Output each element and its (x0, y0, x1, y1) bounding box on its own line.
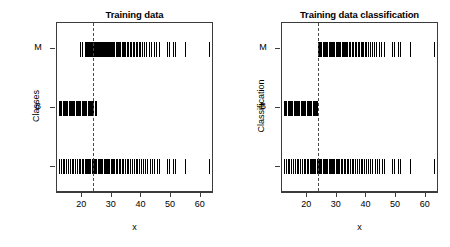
rug-tick (185, 159, 186, 174)
panel-training-data: Training data x Classes 2030405060 MB (0, 0, 225, 247)
rug-row (57, 159, 212, 174)
rug-row (57, 101, 212, 116)
rug-tick (372, 159, 373, 174)
rug-tick (185, 42, 186, 57)
y-tick-label: M (30, 42, 46, 52)
y-tick (275, 107, 280, 108)
rug-tick (156, 42, 157, 57)
rug-tick (149, 42, 150, 57)
y-tick (275, 166, 280, 167)
rug-tick (398, 159, 399, 174)
rug-tick (144, 42, 145, 57)
rug-tick (159, 159, 160, 174)
rug-tick (392, 159, 393, 174)
rug-tick (96, 101, 97, 116)
rug-tick (376, 42, 377, 57)
panel-title: Training data classification (281, 9, 438, 20)
rug-row (57, 42, 212, 57)
rug-tick (392, 42, 393, 57)
x-tick-label: 60 (410, 199, 440, 209)
y-tick (50, 48, 55, 49)
threshold-line (93, 23, 94, 191)
rug-tick (159, 42, 160, 57)
rug-tick (143, 159, 144, 174)
rug-tick (372, 42, 373, 57)
rug-tick (157, 159, 158, 174)
rug-tick (80, 42, 81, 57)
rug-tick (173, 159, 174, 174)
panel-title: Training data (56, 9, 213, 20)
figure-container: Training data x Classes 2030405060 MB Tr… (0, 0, 450, 247)
rug-tick (152, 159, 153, 174)
x-tick-label: 40 (350, 199, 380, 209)
rug-tick (382, 159, 383, 174)
x-axis-title: x (56, 222, 213, 232)
x-axis-title: x (281, 222, 438, 232)
rug-tick (209, 42, 210, 57)
x-tick (140, 192, 141, 197)
x-tick (200, 192, 201, 197)
rug-tick (154, 42, 155, 57)
rug-row (282, 101, 437, 116)
x-tick (336, 192, 337, 197)
x-tick (425, 192, 426, 197)
x-tick-label: 20 (291, 199, 321, 209)
rug-tick (434, 42, 435, 57)
y-tick (50, 166, 55, 167)
x-tick (170, 192, 171, 197)
x-axis-line (56, 192, 213, 193)
rug-tick (169, 159, 170, 174)
rug-tick (154, 159, 155, 174)
x-tick-label: 40 (125, 199, 155, 209)
rug-tick (167, 159, 168, 174)
x-tick-label: 50 (155, 199, 185, 209)
rug-tick (410, 159, 411, 174)
rug-tick (151, 42, 152, 57)
rug-row (282, 42, 437, 57)
rug-tick (370, 159, 371, 174)
y-tick (50, 107, 55, 108)
x-tick (395, 192, 396, 197)
plot-area (281, 22, 438, 192)
x-tick-label: 30 (321, 199, 351, 209)
x-tick (111, 192, 112, 197)
y-tick-label: B (255, 101, 271, 111)
panel-training-data-classification: Training data classification x Classific… (225, 0, 450, 247)
x-tick (306, 192, 307, 197)
rug-tick (398, 42, 399, 57)
rug-tick (394, 42, 395, 57)
plot-area (56, 22, 213, 192)
rug-tick (209, 159, 210, 174)
rug-tick (379, 42, 380, 57)
x-tick-label: 20 (66, 199, 96, 209)
y-tick-label: M (255, 42, 271, 52)
x-tick-label: 30 (96, 199, 126, 209)
rug-tick (169, 42, 170, 57)
rug-tick (410, 42, 411, 57)
y-tick-label: B (30, 101, 46, 111)
rug-tick (173, 42, 174, 57)
rug-tick (167, 42, 168, 57)
rug-tick (377, 159, 378, 174)
rug-tick (381, 42, 382, 57)
rug-tick (379, 159, 380, 174)
x-tick (81, 192, 82, 197)
rug-tick (384, 42, 385, 57)
rug-tick (375, 159, 376, 174)
threshold-line (318, 23, 319, 191)
rug-tick (146, 42, 147, 57)
rug-tick (175, 159, 176, 174)
rug-tick (145, 159, 146, 174)
rug-tick (147, 159, 148, 174)
rug-tick (394, 159, 395, 174)
rug-tick (384, 159, 385, 174)
rug-tick (82, 42, 83, 57)
rug-tick (434, 159, 435, 174)
rug-tick (150, 159, 151, 174)
rug-tick (368, 159, 369, 174)
rug-tick (175, 42, 176, 57)
x-tick (365, 192, 366, 197)
x-tick-label: 50 (380, 199, 410, 209)
rug-row (282, 159, 437, 174)
rug-tick (400, 42, 401, 57)
